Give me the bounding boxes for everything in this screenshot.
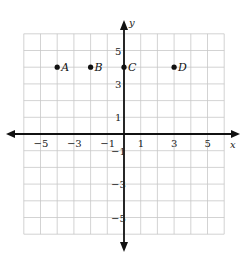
- y-tick-label: 3: [115, 79, 121, 90]
- y-tick-label: −5: [111, 213, 126, 224]
- point-marker-icon: [55, 65, 60, 70]
- point-marker-icon: [172, 65, 177, 70]
- x-tick-label: −3: [67, 138, 82, 149]
- y-tick-label: 5: [115, 46, 121, 57]
- y-axis-down-arrow-icon: [120, 242, 128, 252]
- x-tick-label: 1: [138, 138, 144, 149]
- x-tick-label: −5: [34, 138, 49, 149]
- point-label: B: [94, 61, 103, 74]
- y-axis-up-arrow-icon: [120, 20, 128, 30]
- coordinate-plane: x y −5−3−1135531−1−3−5 ABCD: [0, 0, 246, 258]
- point-label: A: [60, 61, 69, 74]
- point-label: D: [177, 61, 187, 74]
- y-tick-label: −1: [111, 146, 126, 157]
- point-marker-icon: [88, 65, 93, 70]
- data-point-a: A: [55, 61, 70, 74]
- y-tick-label: 1: [115, 112, 121, 123]
- y-tick-label: −3: [111, 179, 126, 190]
- x-axis-title: x: [230, 139, 236, 150]
- x-axis-left-arrow-icon: [6, 130, 15, 138]
- x-axis-right-arrow-icon: [231, 130, 240, 138]
- x-tick-label: 3: [171, 138, 177, 149]
- point-label: C: [128, 61, 137, 74]
- data-points: ABCD: [55, 61, 188, 74]
- point-marker-icon: [121, 65, 126, 70]
- y-axis-title: y: [128, 17, 135, 28]
- x-tick-label: 5: [205, 138, 211, 149]
